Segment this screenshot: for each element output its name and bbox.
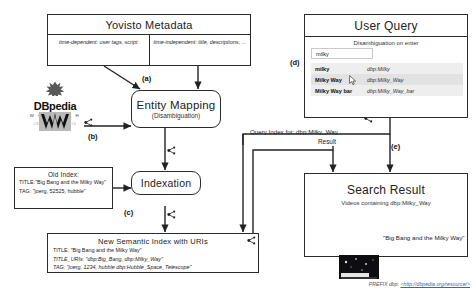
search-result-panel: Search Result Videos containing dbp:Milk… [304,173,468,257]
new-index-title: New Semantic Index with URIs [53,237,253,246]
video-caption: "Big Bang and the Milky Way" [383,234,467,241]
indexation-title: Indexation [141,177,191,189]
dbpedia-crown-icon [24,80,86,96]
wortschatz-logo: W O R T S C H A T Z UNIVERSITÄT LEIPZIG [28,112,82,144]
video-thumbnail[interactable] [339,255,379,279]
new-index-line-tag: TAG: "joerg, 1234, hubble dbp:Hubble_Spa… [53,263,253,272]
search-input[interactable]: milky [311,48,373,59]
edge-label-a: (a) [142,74,151,83]
old-index-box: Old Index: TITLE:"Big Bang and the Milky… [14,167,113,209]
prefix-uri-link[interactable]: <http://dbpedia.org/resource/> [400,281,470,287]
edge-label-c: (c) [124,208,133,217]
edge-label-e: (e) [391,142,400,151]
old-index-line-tag: TAG: "joerg, 52525, hubble" [19,187,108,196]
diagram-canvas: Yovisto Metadata time-dependent: user ta… [0,0,476,301]
prefix-label: PREFIX dbp: [369,281,401,287]
suggestion-uri: dbp:Milky [367,66,463,72]
rdf-node-icon-indexation-out [167,210,176,219]
prefix-note: PREFIX dbp: <http://dbpedia.org/resource… [258,281,470,287]
new-index-line-title: TITLE: "Big Bang and the Milky Way" [53,246,253,255]
wortschatz-mark-icon [39,112,71,131]
user-query-title: User Query [354,19,417,33]
old-index-title: Old Index: [19,171,108,178]
rdf-node-icon-mapping-out [167,146,176,155]
new-index-line-title-uris: TITLE_URIs: "dbp:Big_Bang, dbp:Milky_Way… [53,255,253,264]
query-index-label: Query Index for: dbp:Milky_Way [250,128,338,135]
metadata-cell-time-dependent: time-dependent: user tags, script [48,35,150,66]
metadata-cell-time-independent: time-independent: title, descriptions, .… [150,35,251,66]
entity-mapping-node[interactable]: Entity Mapping (Disambiguation) [131,90,221,128]
user-query-panel: User Query Disambiguation on enter milky… [304,14,468,118]
dbpedia-logo: DBpedia [24,80,86,110]
rdf-node-icon [247,236,256,245]
suggestion-term: Milky Way bar [311,88,367,94]
metadata-header: Yovisto Metadata [48,15,250,35]
mouse-cursor-icon [349,75,357,86]
suggestion-list[interactable]: milky dbp:Milky Milky Way dbp:Milky_Way … [311,63,463,99]
suggestion-item[interactable]: milky dbp:Milky [311,63,463,74]
old-index-line-title: TITLE:"Big Bang and the Milky Way" [19,178,108,187]
indexation-node[interactable]: Indexation [131,171,201,195]
user-query-header: User Query [305,15,467,37]
result-label: Result [318,138,336,145]
suggestion-term: milky [311,66,367,72]
entity-mapping-subtitle: (Disambiguation) [152,112,200,119]
suggestion-term: Milky Way [311,77,367,83]
dbpedia-wordmark: DBpedia [24,100,86,112]
suggestion-item[interactable]: Milky Way dbp:Milky_Way [311,74,463,85]
edge-label-b: (b) [88,132,98,141]
search-result-subtitle: Videos containing dbp:Milky_Way [305,200,467,206]
suggestion-uri: dbp:Milky_Way_bar [367,88,463,94]
search-result-title: Search Result [305,183,467,197]
suggestion-item[interactable]: Milky Way bar dbp:Milky_Way_bar [311,85,463,96]
user-query-subtitle: Disambiguation on enter [305,40,467,46]
yovisto-metadata-box: Yovisto Metadata time-dependent: user ta… [47,14,251,66]
new-semantic-index-box: New Semantic Index with URIs TITLE: "Big… [47,233,259,273]
edge-label-d: (d) [290,58,300,67]
entity-mapping-title: Entity Mapping [137,99,216,111]
metadata-title: Yovisto Metadata [105,19,192,31]
rdf-node-icon-sources [84,118,93,127]
suggestion-uri: dbp:Milky_Way [367,77,463,83]
